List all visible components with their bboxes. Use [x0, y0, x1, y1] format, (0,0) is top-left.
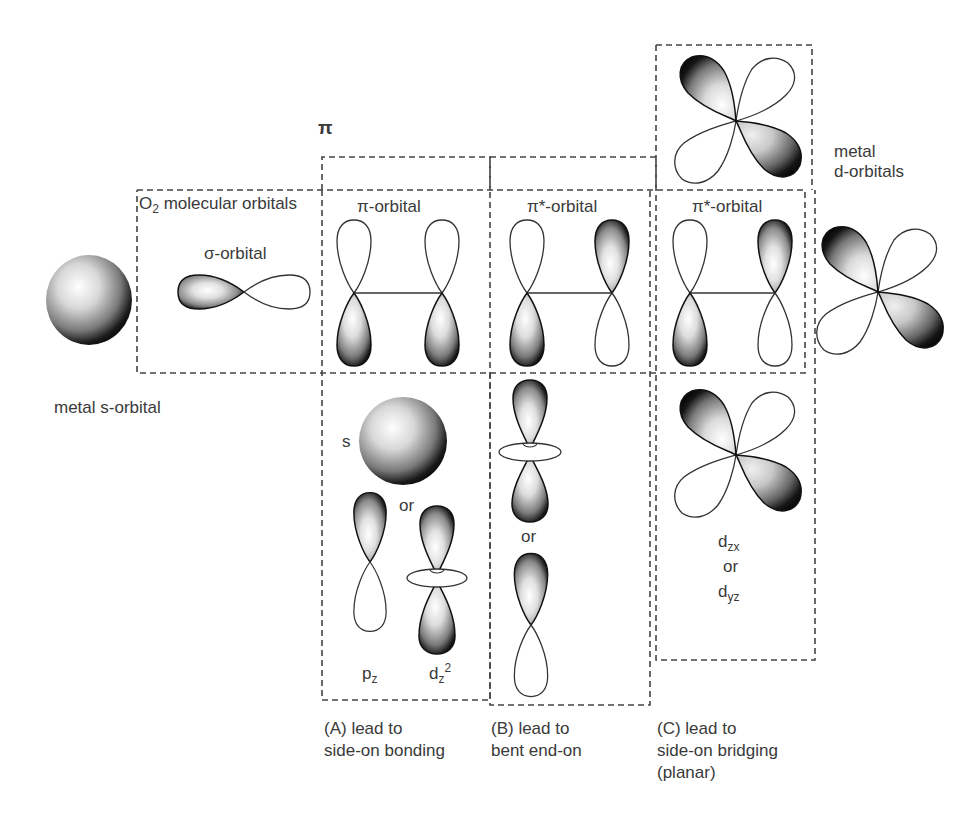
orbital-diagram: π O2 molecular orbitals σ-orbital π-orbi… — [0, 0, 971, 819]
pz-label: pz — [362, 664, 377, 684]
dzx-subscript: zx — [727, 540, 739, 554]
caption-c-line2: side-on bridging — [657, 740, 778, 762]
metal-d-orbitals-line2: d-orbitals — [834, 162, 904, 182]
dzx-label: dzx — [718, 532, 739, 552]
dz2-superscript: 2 — [444, 661, 451, 675]
pi-top-box-a — [322, 157, 490, 190]
metal-d-orbital-bottom-c — [675, 390, 802, 517]
o2-sigma-orbital — [178, 275, 310, 309]
dyz-label: dyz — [718, 582, 739, 602]
metal-d-orbitals-label: metal d-orbitals — [834, 142, 904, 182]
pz-subscript: z — [371, 672, 377, 686]
caption-b-line1: (B) lead to — [491, 718, 582, 740]
metal-d-orbital-right — [817, 227, 944, 354]
caption-b-line2: bent end-on — [491, 740, 582, 762]
or-label-a: or — [399, 496, 414, 516]
or-label-b: or — [521, 527, 536, 547]
caption-c: (C) lead to side-on bridging (planar) — [657, 718, 778, 784]
metal-s-orbital — [46, 255, 132, 345]
o2-pi-star-orbital-c — [673, 220, 792, 366]
o2-pi-star-orbital-b — [510, 220, 629, 366]
metal-d-orbitals-line1: metal — [834, 142, 904, 162]
caption-c-line1: (C) lead to — [657, 718, 778, 740]
caption-a-line2: side-on bonding — [324, 740, 445, 762]
pi-orbital-label: π-orbital — [357, 197, 421, 217]
metal-pz-option-b — [514, 553, 547, 696]
caption-b: (B) lead to bent end-on — [491, 718, 582, 762]
metal-dz2-option-b — [499, 380, 561, 522]
metal-dz2-option-a — [407, 506, 467, 654]
caption-c-line3: (planar) — [657, 762, 778, 784]
dyz-subscript: yz — [727, 590, 739, 604]
sigma-orbital-label: σ-orbital — [204, 244, 266, 264]
dz2-label: dz2 — [429, 664, 451, 684]
metal-s-option-a — [359, 397, 447, 485]
pi-top-box-b — [490, 157, 656, 190]
pi-star-orbital-c-label: π*-orbital — [692, 197, 762, 217]
caption-a: (A) lead to side-on bonding — [324, 718, 445, 762]
metal-pz-option-a — [354, 493, 386, 632]
molecular-orbitals-text: molecular orbitals — [164, 194, 297, 213]
o2-subscript: 2 — [152, 202, 159, 216]
o2-pi-orbital — [337, 220, 459, 366]
o2-prefix: O — [139, 194, 152, 213]
caption-a-line1: (A) lead to — [324, 718, 445, 740]
pi-top-label: π — [318, 118, 333, 138]
s-label: s — [342, 432, 351, 452]
metal-d-orbital-top-c — [675, 56, 802, 183]
o2-molecular-orbitals-label: O2 molecular orbitals — [139, 194, 297, 214]
metal-s-orbital-label: metal s-orbital — [54, 398, 161, 418]
pi-star-orbital-b-label: π*-orbital — [527, 197, 597, 217]
or-label-c: or — [723, 557, 738, 577]
